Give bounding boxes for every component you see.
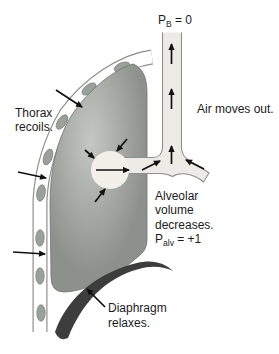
rib bbox=[36, 268, 44, 285]
air-moves-out-label: Air moves out. bbox=[197, 102, 274, 116]
diaphragm-label-line1: Diaphragm bbox=[108, 301, 167, 316]
thorax-label-line1: Thorax bbox=[15, 106, 53, 120]
expiration-diagram: PB = 0 Air moves out. Thorax recoils. Al… bbox=[0, 0, 279, 354]
alveolar-pressure-value: Palv = +1 bbox=[155, 232, 214, 250]
alveolar-label-line1: Alveolar bbox=[155, 189, 214, 203]
palv-value: = +1 bbox=[174, 232, 201, 246]
diaphragm-label-line2: relaxes. bbox=[108, 316, 167, 331]
thorax-recoils-label: Thorax recoils. bbox=[15, 106, 53, 134]
rib bbox=[37, 305, 45, 322]
barometric-pressure-label: PB = 0 bbox=[158, 13, 192, 31]
palv-subscript: alv bbox=[163, 238, 174, 248]
pb-base: P bbox=[158, 13, 166, 27]
alveolar-label-line2: volume bbox=[155, 203, 214, 217]
rib bbox=[36, 230, 45, 247]
palv-base: P bbox=[155, 232, 163, 246]
alveolar-volume-label: Alveolar volume decreases. Palv = +1 bbox=[155, 189, 214, 250]
pb-value: = 0 bbox=[172, 13, 192, 27]
diaphragm-relaxes-label: Diaphragm relaxes. bbox=[108, 301, 167, 331]
thorax-label-line2: recoils. bbox=[15, 120, 53, 134]
alveolar-label-line3: decreases. bbox=[155, 218, 214, 232]
